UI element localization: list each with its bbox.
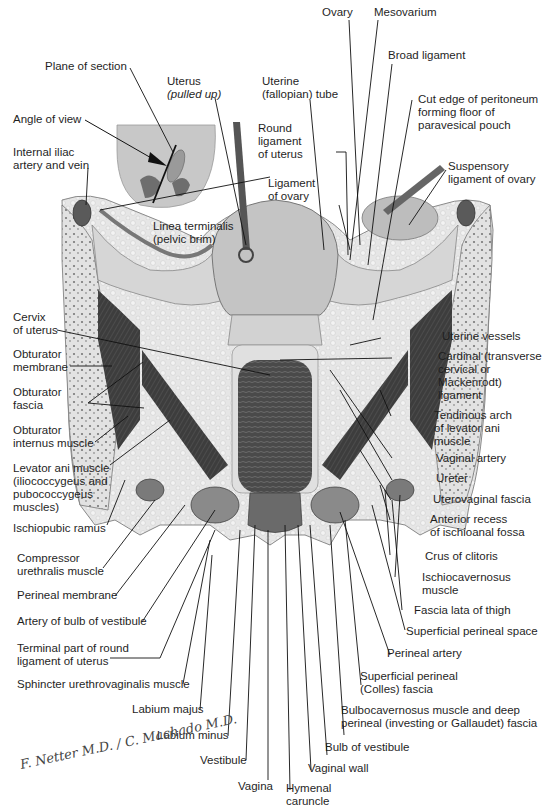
label-sphincter-urethrovaginalis: Sphincter urethrovaginalis muscle bbox=[17, 678, 190, 691]
label-vagina: Vagina bbox=[238, 780, 273, 793]
label-angle-of-view: Angle of view bbox=[13, 113, 81, 126]
label-uterus: Uterus(pulled up) bbox=[167, 75, 221, 101]
label-internal-iliac: Internal iliac artery and vein bbox=[13, 146, 89, 172]
label-crus-clitoris: Crus of clitoris bbox=[425, 550, 498, 563]
label-cervix: Cervix of uterus bbox=[13, 311, 58, 337]
label-cardinal-ligament: Cardinal (transverse cervical or Mackenr… bbox=[438, 350, 542, 402]
label-ischiopubic-ramus: Ischiopubic ramus bbox=[13, 522, 106, 535]
label-uterovaginal-fascia: Uterovaginal fascia bbox=[433, 493, 531, 506]
label-hymenal-caruncle: Hymenal caruncle bbox=[286, 782, 331, 806]
label-labium-majus: Labium majus bbox=[132, 703, 204, 716]
label-vestibule: Vestibule bbox=[200, 754, 247, 767]
label-cut-edge-peritoneum: Cut edge of peritoneum forming floor of … bbox=[418, 93, 538, 132]
label-tendinous-arch: Tendinous arch of levator ani muscle bbox=[434, 409, 512, 448]
label-artery-bulb: Artery of bulb of vestibule bbox=[17, 615, 147, 628]
label-bulb-vestibule: Bulb of vestibule bbox=[325, 741, 409, 754]
label-obturator-fascia: Obturator fascia bbox=[13, 386, 62, 412]
label-broad-ligament: Broad ligament bbox=[388, 49, 465, 62]
label-bulbocavernosus: Bulbocavernosus muscle and deep perineal… bbox=[341, 704, 537, 730]
label-vaginal-artery: Vaginal artery bbox=[436, 452, 506, 465]
label-ureter: Ureter bbox=[436, 472, 468, 485]
label-uterine-tube: Uterine (fallopian) tube bbox=[262, 75, 338, 101]
label-obturator-internus: Obturator internus muscle bbox=[13, 424, 94, 450]
label-anterior-recess: Anterior recess of ischioanal fossa bbox=[430, 513, 525, 539]
label-linea-terminalis: Linea terminalis (pelvic brim) bbox=[153, 220, 234, 246]
label-ischiocavernosus: Ischiocavernosus muscle bbox=[422, 571, 511, 597]
label-compressor-urethralis: Compressor urethralis muscle bbox=[17, 552, 104, 578]
label-perineal-artery: Perineal artery bbox=[387, 647, 462, 660]
label-mesovarium: Mesovarium bbox=[374, 6, 437, 19]
label-uterine-vessels: Uterine vessels bbox=[442, 330, 521, 343]
label-fascia-lata: Fascia lata of thigh bbox=[414, 604, 511, 617]
label-levator-ani: Levator ani muscle (iliococcygeus and pu… bbox=[13, 462, 110, 514]
label-ovary: Ovary bbox=[322, 6, 353, 19]
label-ligament-of-ovary: Ligament of ovary bbox=[268, 177, 315, 203]
label-suspensory-ligament: Suspensory ligament of ovary bbox=[448, 160, 536, 186]
label-plane-of-section: Plane of section bbox=[45, 60, 127, 73]
label-uterus-text: Uterus bbox=[167, 75, 201, 87]
label-vaginal-wall: Vaginal wall bbox=[308, 762, 369, 775]
label-terminal-round-ligament: Terminal part of round ligament of uteru… bbox=[17, 642, 129, 668]
label-superficial-perineal-space: Superficial perineal space bbox=[406, 625, 538, 638]
label-obturator-membrane: Obturator membrane bbox=[13, 348, 68, 374]
label-colles-fascia: Superficial perineal (Colles) fascia bbox=[360, 670, 458, 696]
label-uterus-note: (pulled up) bbox=[167, 88, 221, 100]
label-round-ligament: Round ligament of uterus bbox=[258, 122, 303, 161]
label-perineal-membrane: Perineal membrane bbox=[17, 589, 117, 602]
inset-diagram bbox=[85, 120, 215, 208]
